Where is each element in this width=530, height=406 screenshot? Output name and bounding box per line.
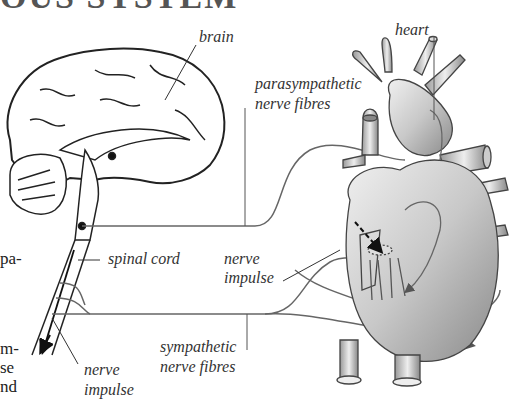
label-nerve-impulse-cord-line1: nerve <box>84 360 120 380</box>
label-sympathetic-line2: nerve fibres <box>160 357 235 377</box>
heart-illustration <box>337 37 508 387</box>
label-parasympathetic-line2: nerve fibres <box>255 94 330 114</box>
label-nerve-impulse-cord-line2: impulse <box>84 380 134 400</box>
nervous-system-diagram <box>0 0 530 406</box>
label-sympathetic-line1: sympathetic <box>160 337 236 357</box>
label-nerve-impulse-heart-line1: nerve <box>224 249 260 269</box>
nerve-impulse-heart-leader-line <box>283 250 340 281</box>
label-parasympathetic-line1: parasympathetic <box>255 74 362 94</box>
label-heart: heart <box>395 20 429 40</box>
label-nerve-impulse-heart-line2: impulse <box>224 268 274 288</box>
label-brain: brain <box>199 27 234 47</box>
cerebellum-illustration <box>10 154 66 214</box>
label-spinal-cord: spinal cord <box>108 249 180 269</box>
